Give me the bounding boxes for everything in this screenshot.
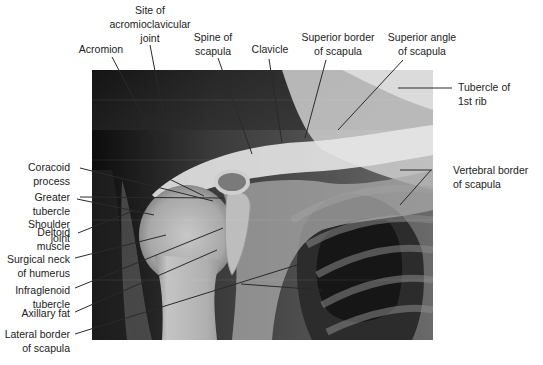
label-superior-border-of-scapula: Superior border of scapula (302, 30, 375, 58)
label-ac-joint: Site of acromioclavicular joint (109, 3, 190, 45)
label-surgical-neck-of-humerus: Surgical neck of humerus (7, 252, 70, 280)
label-tubercle-of-1st-rib: Tubercle of 1st rib (458, 80, 510, 108)
label-vertebral-border-of-scapula: Vertebral border of scapula (453, 163, 528, 191)
label-coracoid-process: Coracoid process (28, 160, 70, 188)
label-greater-tubercle: Greater tubercle (33, 190, 70, 218)
label-axillary-fat: Axillary fat (22, 306, 70, 320)
figure: Acromion Site of acromioclavicular joint… (0, 0, 543, 365)
label-spine-of-scapula: Spine of scapula (194, 30, 233, 58)
label-clavicle: Clavicle (252, 42, 289, 56)
label-deltoid-muscle: Deltoid muscle (37, 225, 70, 253)
label-lateral-border-of-scapula: Lateral border of scapula (5, 327, 70, 355)
label-superior-angle-of-scapula: Superior angle of scapula (388, 30, 456, 58)
